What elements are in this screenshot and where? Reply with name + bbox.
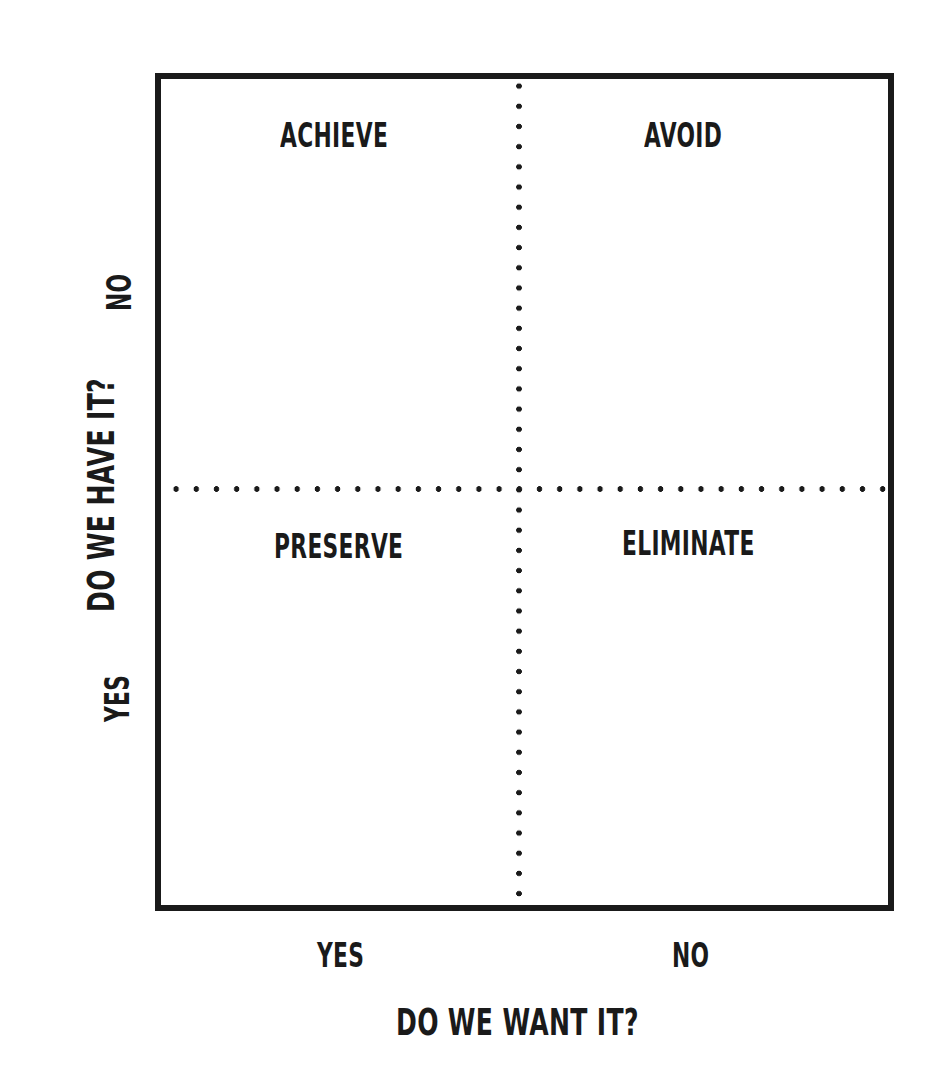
- quadrant-avoid: AVOID: [644, 119, 722, 152]
- quadrant-achieve: ACHIEVE: [280, 119, 388, 152]
- quadrant-preserve: PRESERVE: [274, 530, 403, 563]
- quadrant-eliminate: ELIMINATE: [622, 527, 755, 560]
- matrix-frame: [155, 73, 894, 911]
- x-axis-no-label: NO: [672, 939, 709, 972]
- x-axis-yes-label: YES: [317, 939, 364, 972]
- x-axis-title: DO WE WANT IT?: [396, 1003, 639, 1041]
- horizontal-dotted-divider: [166, 486, 888, 492]
- y-axis-no-label: NO: [103, 274, 136, 311]
- y-axis-title: DO WE HAVE IT?: [82, 378, 120, 612]
- y-axis-yes-label: YES: [101, 675, 134, 722]
